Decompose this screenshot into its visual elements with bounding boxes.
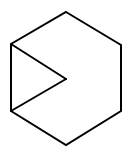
inner-line-1 [11,44,66,79]
inner-triangle-lines [11,44,66,111]
inner-line-2 [11,79,66,111]
diagram-canvas [0,0,128,157]
hexagon-notch-figure [0,0,128,157]
